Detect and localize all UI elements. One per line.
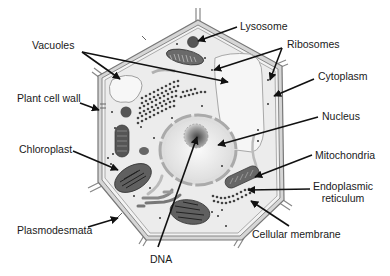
label-ribosomes: Ribosomes [287, 38, 340, 50]
lysosome-shape [188, 37, 199, 48]
nucleus-shape [160, 115, 236, 185]
label-chloroplast: Chloroplast [19, 143, 72, 155]
label-lysosome: Lysosome [240, 20, 287, 32]
arrow-plasmodesmata [88, 218, 118, 227]
label-vacuoles: Vacuoles [32, 39, 74, 51]
label-mitochondria: Mitochondria [315, 149, 375, 161]
label-nucleus: Nucleus [322, 110, 360, 122]
label-plasmodesmata: Plasmodesmata [17, 224, 92, 236]
label-cytoplasm: Cytoplasm [318, 70, 368, 82]
label-dna: DNA [150, 253, 172, 265]
label-endoplasmic-line1: Endoplasmic [312, 180, 374, 192]
label-endoplasmic-reticulum: Endoplasmic reticulum [312, 180, 374, 204]
label-plant-cell-wall: Plant cell wall [17, 92, 81, 104]
mitochondrion-left [115, 125, 129, 157]
label-cellular-membrane: Cellular membrane [252, 228, 341, 240]
arrow-endoplasmic-reticulum [248, 189, 310, 190]
arrow-plant-cell-wall [80, 103, 99, 110]
nucleolus [184, 124, 208, 148]
label-endoplasmic-line2: reticulum [312, 192, 374, 204]
